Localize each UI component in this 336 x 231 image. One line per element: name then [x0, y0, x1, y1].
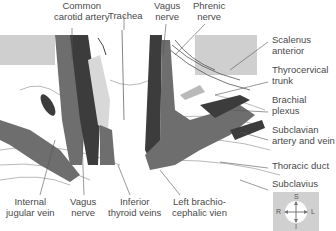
- label-phrenic-nerve: Phrenic nerve: [193, 0, 225, 22]
- compass-inferior: I: [295, 223, 297, 231]
- compass-left: L: [311, 208, 315, 216]
- left-muscle-panel: [0, 35, 55, 65]
- label-thyrocervical-trunk: Thyrocervical trunk: [272, 64, 329, 86]
- label-inferior-thyroid-veins: Inferior thyroid veins: [108, 196, 161, 218]
- label-internal-jugular-vein: Internal jugular vein: [6, 196, 55, 218]
- label-scalenus-anterior: Scalenus anterior: [272, 34, 311, 56]
- label-subclavius: Subclavius: [272, 178, 318, 189]
- compass-superior: S: [294, 193, 299, 201]
- orientation-compass: S I R L: [273, 192, 319, 231]
- label-thoracic-duct: Thoracic duct: [272, 160, 329, 171]
- label-brachial-plexus: Brachial plexus: [272, 94, 306, 116]
- right-muscle-panel: [195, 35, 257, 75]
- label-subclavian-artery-vein: Subclavian artery and vein: [272, 124, 335, 146]
- label-common-carotid-artery: Common carotid artery: [54, 0, 109, 22]
- label-trachea: Trachea: [108, 10, 143, 21]
- label-left-brachiocephalic-vein: Left brachio- cephalic vien: [172, 196, 227, 218]
- label-vagus-nerve-top: Vagus nerve: [154, 0, 180, 22]
- anatomy-figure: Common carotid artery Trachea Vagus nerv…: [0, 0, 336, 231]
- compass-right: R: [276, 208, 281, 216]
- label-vagus-nerve-bottom: Vagus nerve: [70, 196, 96, 218]
